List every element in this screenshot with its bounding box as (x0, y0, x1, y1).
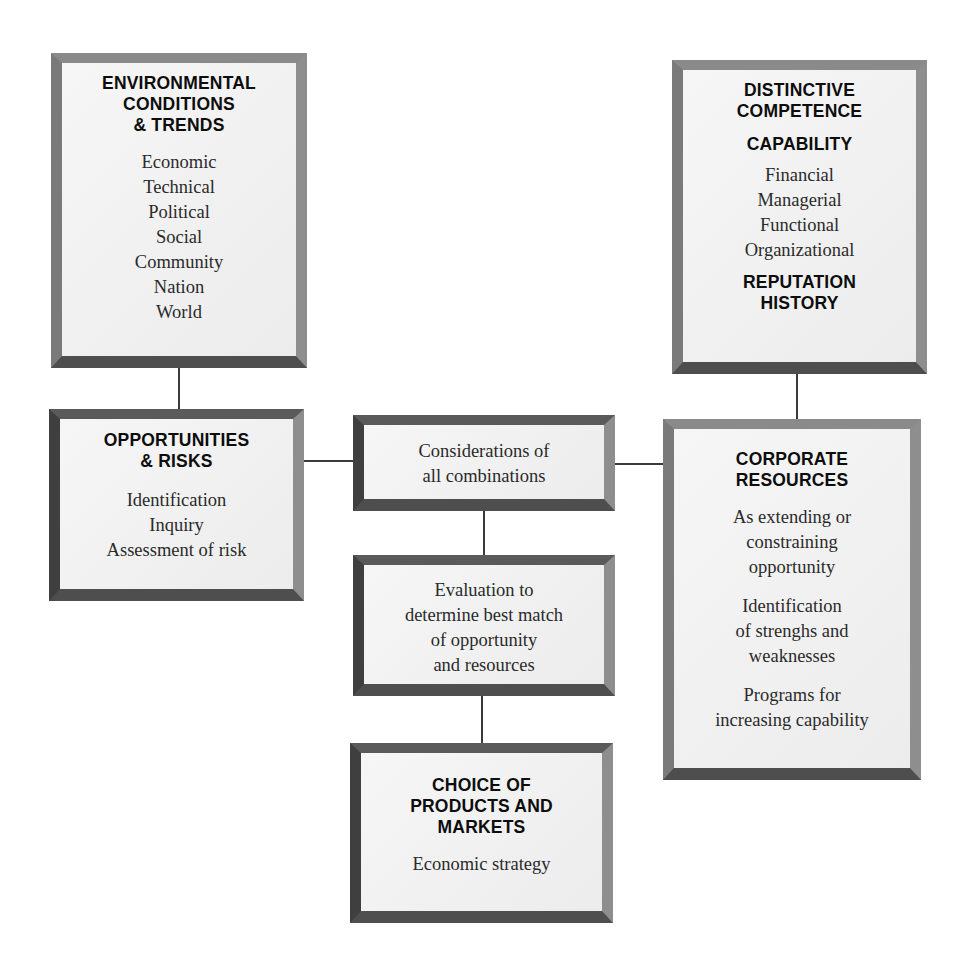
title-line: CORPORATE (674, 449, 910, 470)
title-line: & TRENDS (62, 115, 296, 136)
capability-heading: CAPABILITY (683, 134, 916, 155)
title-line: ENVIRONMENTAL (62, 73, 296, 94)
connector-considerations-evaluation (483, 509, 485, 556)
item-organizational: Organizational (683, 238, 916, 263)
capability-items: Financial Managerial Functional Organiza… (683, 163, 916, 263)
item-political: Political (62, 200, 296, 225)
choice-items: Economic strategy (361, 852, 602, 877)
item-social: Social (62, 225, 296, 250)
text-line: As extending or (674, 505, 910, 530)
text-line: of strenghs and (674, 619, 910, 644)
item-world: World (62, 300, 296, 325)
text-line: constraining (674, 530, 910, 555)
item-assessment: Assessment of risk (60, 538, 293, 563)
item-community: Community (62, 250, 296, 275)
connector-environmental-opportunities (178, 366, 180, 410)
connector-evaluation-choice (481, 694, 483, 744)
text-line: determine best match (364, 603, 604, 628)
item-managerial: Managerial (683, 188, 916, 213)
opportunities-title: OPPORTUNITIES & RISKS (60, 430, 293, 472)
corporate-resources-box: CORPORATE RESOURCES As extending or cons… (663, 419, 921, 780)
environmental-conditions-box: ENVIRONMENTAL CONDITIONS & TRENDS Econom… (51, 53, 307, 368)
evaluation-box: Evaluation to determine best match of op… (353, 555, 615, 696)
text-line: of opportunity (364, 628, 604, 653)
title-line: HISTORY (683, 293, 916, 314)
item-identification: Identification (60, 488, 293, 513)
item-economic-strategy: Economic strategy (361, 852, 602, 877)
title-line: MARKETS (361, 817, 602, 838)
title-line: CHOICE OF (361, 775, 602, 796)
title-line: PRODUCTS AND (361, 796, 602, 817)
connector-considerations-corporate (614, 463, 664, 465)
evaluation-text: Evaluation to determine best match of op… (364, 578, 604, 678)
title-line: OPPORTUNITIES (60, 430, 293, 451)
choice-products-markets-box: CHOICE OF PRODUCTS AND MARKETS Economic … (350, 743, 613, 923)
text-line: Considerations of (364, 439, 604, 464)
text-line: and resources (364, 653, 604, 678)
title-line: RESOURCES (674, 470, 910, 491)
item-inquiry: Inquiry (60, 513, 293, 538)
item-technical: Technical (62, 175, 296, 200)
environmental-title: ENVIRONMENTAL CONDITIONS & TRENDS (62, 73, 296, 136)
text-line: opportunity (674, 555, 910, 580)
considerations-box: Considerations of all combinations (353, 415, 615, 511)
text-line: Evaluation to (364, 578, 604, 603)
title-line: COMPETENCE (683, 101, 916, 122)
item-nation: Nation (62, 275, 296, 300)
corporate-title: CORPORATE RESOURCES (674, 449, 910, 491)
title-line: & RISKS (60, 451, 293, 472)
connector-distinctive-corporate (796, 372, 798, 420)
item-functional: Functional (683, 213, 916, 238)
environmental-items: Economic Technical Political Social Comm… (62, 150, 296, 325)
item-economic: Economic (62, 150, 296, 175)
text-line: weaknesses (674, 644, 910, 669)
considerations-text: Considerations of all combinations (364, 439, 604, 489)
text-line: all combinations (364, 464, 604, 489)
distinctive-competence-box: DISTINCTIVE COMPETENCE CAPABILITY Financ… (672, 60, 927, 374)
text-line: Identification (674, 594, 910, 619)
choice-title: CHOICE OF PRODUCTS AND MARKETS (361, 775, 602, 838)
title-line: DISTINCTIVE (683, 80, 916, 101)
corporate-group-2: Identification of strenghs and weaknesse… (674, 594, 910, 669)
text-line: Programs for (674, 683, 910, 708)
opportunities-risks-box: OPPORTUNITIES & RISKS Identification Inq… (49, 409, 304, 601)
corporate-group-1: As extending or constraining opportunity (674, 505, 910, 580)
title-line: REPUTATION (683, 272, 916, 293)
corporate-group-3: Programs for increasing capability (674, 683, 910, 733)
text-line: increasing capability (674, 708, 910, 733)
distinctive-title: DISTINCTIVE COMPETENCE (683, 80, 916, 122)
reputation-history-heading: REPUTATION HISTORY (683, 272, 916, 314)
opportunities-items: Identification Inquiry Assessment of ris… (60, 488, 293, 563)
title-line: CONDITIONS (62, 94, 296, 115)
item-financial: Financial (683, 163, 916, 188)
connector-opportunities-considerations (302, 460, 354, 462)
